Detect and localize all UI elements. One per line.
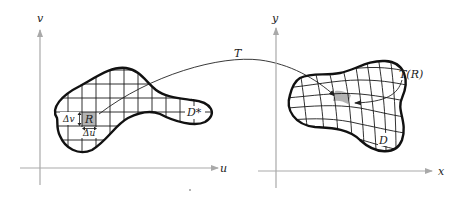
t-r-label: T(R): [399, 68, 423, 81]
cell-label-r: R: [84, 113, 93, 126]
u-axis-label: u: [220, 162, 227, 175]
uv-plane: v u: [20, 12, 227, 185]
region-d-label: D: [378, 134, 388, 147]
mapping-t: T: [99, 47, 335, 114]
y-axis-label: y: [271, 12, 279, 25]
v-axis-label: v: [37, 12, 44, 25]
change-of-variables-diagram: v u: [0, 0, 464, 201]
t-r-pointer-arrow: [355, 80, 402, 103]
xy-curvilinear-grid: [280, 55, 412, 155]
uv-grid: [45, 40, 220, 170]
region-d-star-label: D*: [186, 106, 202, 119]
mapping-label-t: T: [234, 47, 243, 60]
xy-plane: y x: [258, 12, 445, 188]
delta-v-label: Δv: [62, 114, 75, 124]
x-axis-label: x: [438, 165, 445, 178]
stray-dot: [189, 189, 191, 191]
